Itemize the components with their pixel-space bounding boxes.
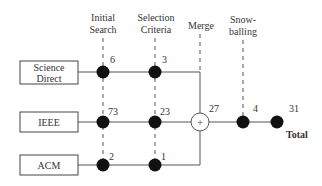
source-label-science-direct-line1: Science bbox=[33, 62, 65, 73]
node-ieee-initial bbox=[97, 116, 110, 129]
column-header-selection-criteria-line1: Selection bbox=[137, 12, 174, 23]
node-acm-initial bbox=[97, 159, 110, 172]
count-science-direct-selected: 3 bbox=[162, 54, 167, 65]
count-science-direct-initial: 6 bbox=[110, 54, 115, 65]
count-snowballing: 4 bbox=[253, 103, 258, 114]
node-acm-selected bbox=[149, 159, 162, 172]
nodes bbox=[97, 66, 284, 172]
literature-search-flow-diagram: Initial Search Selection Criteria Merge … bbox=[0, 0, 322, 186]
count-ieee-selected: 23 bbox=[160, 106, 170, 117]
node-total bbox=[271, 116, 284, 129]
source-label-ieee: IEEE bbox=[38, 117, 60, 128]
plus-icon: + bbox=[197, 117, 203, 128]
source-box-acm: ACM bbox=[20, 155, 78, 175]
count-merge: 27 bbox=[209, 103, 219, 114]
count-ieee-initial: 73 bbox=[108, 106, 118, 117]
node-ieee-selected bbox=[149, 116, 162, 129]
source-box-ieee: IEEE bbox=[20, 112, 78, 132]
column-guides bbox=[103, 34, 243, 165]
count-total: 31 bbox=[289, 103, 299, 114]
column-header-snowballing-line1: Snow- bbox=[230, 14, 256, 25]
count-acm-initial: 2 bbox=[109, 151, 114, 162]
source-label-science-direct-line2: Direct bbox=[37, 73, 62, 84]
column-header-initial-search-line1: Initial bbox=[91, 12, 115, 23]
column-header-merge: Merge bbox=[188, 20, 214, 31]
count-acm-selected: 1 bbox=[161, 151, 166, 162]
source-box-science-direct: Science Direct bbox=[20, 61, 78, 84]
node-science-direct-selected bbox=[149, 66, 162, 79]
node-science-direct-initial bbox=[97, 66, 110, 79]
column-header-initial-search-line2: Search bbox=[89, 24, 116, 35]
node-snowballing bbox=[237, 116, 250, 129]
total-label: Total bbox=[286, 129, 308, 140]
source-label-acm: ACM bbox=[38, 160, 61, 171]
merge-node: + bbox=[191, 113, 209, 131]
column-header-selection-criteria-line2: Criteria bbox=[141, 24, 172, 35]
column-header-snowballing-line2: balling bbox=[229, 26, 257, 37]
